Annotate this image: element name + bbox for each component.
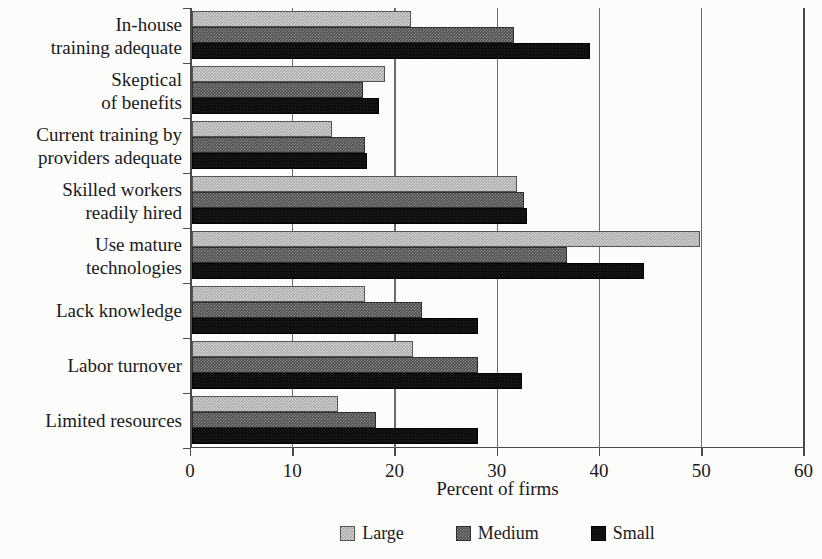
bar-group [192, 393, 805, 448]
bar-small [192, 98, 379, 114]
bar-large [192, 231, 700, 247]
y-axis-label: Skeptical of benefits [101, 68, 182, 114]
y-tick [183, 118, 191, 119]
bar-large [192, 66, 385, 82]
bar-small [192, 208, 527, 224]
y-axis-label: Current training by providers adequate [36, 123, 182, 169]
bar-medium [192, 412, 376, 428]
y-tick [183, 63, 191, 64]
y-tick [183, 393, 191, 394]
y-axis-label: Skilled workers readily hired [62, 178, 182, 224]
chart-legend: LargeMediumSmall [190, 524, 805, 542]
bar-group [192, 173, 805, 228]
y-axis-label: Limited resources [45, 409, 182, 432]
plot-area: 0102030405060 [190, 8, 805, 448]
bar-medium [192, 192, 524, 208]
y-axis-label: Use mature technologies [86, 233, 182, 279]
x-axis-title: Percent of firms [190, 478, 805, 500]
bar-medium [192, 302, 422, 318]
bar-medium [192, 82, 364, 98]
bar-medium [192, 137, 366, 153]
bar-large [192, 11, 412, 27]
bar-large [192, 176, 517, 192]
bar-small [192, 263, 645, 279]
bar-medium [192, 357, 478, 373]
legend-swatch-large [340, 526, 355, 541]
x-tick-50 [701, 448, 702, 456]
bar-group [192, 118, 805, 173]
chart-page: In-house training adequateSkeptical of b… [0, 0, 822, 559]
legend-item-large[interactable]: Large [340, 524, 404, 542]
bar-group [192, 228, 805, 283]
x-tick-0 [190, 448, 191, 456]
bar-group [192, 63, 805, 118]
y-axis-labels: In-house training adequateSkeptical of b… [0, 0, 182, 460]
legend-item-small[interactable]: Small [591, 524, 655, 542]
bar-group [192, 283, 805, 338]
y-axis-label: Lack knowledge [56, 299, 182, 322]
bar-group [192, 338, 805, 393]
legend-item-medium[interactable]: Medium [456, 524, 539, 542]
bar-large [192, 121, 332, 137]
y-axis-label: Labor turnover [68, 354, 182, 377]
legend-label-medium: Medium [478, 524, 539, 542]
bar-small [192, 153, 368, 169]
bar-large [192, 341, 414, 357]
bar-small [192, 428, 478, 444]
bar-group [192, 8, 805, 63]
bar-small [192, 43, 591, 59]
bar-small [192, 318, 478, 334]
y-tick [183, 228, 191, 229]
bar-small [192, 373, 522, 389]
legend-swatch-medium [456, 526, 471, 541]
x-tick-30 [497, 448, 498, 456]
x-tick-40 [599, 448, 600, 456]
x-tick-20 [394, 448, 395, 456]
legend-label-large: Large [362, 524, 404, 542]
bar-large [192, 396, 338, 412]
x-tick-10 [292, 448, 293, 456]
bar-large [192, 286, 366, 302]
x-tick-60 [803, 448, 804, 456]
y-tick [183, 338, 191, 339]
legend-swatch-small [591, 526, 606, 541]
legend-label-small: Small [613, 524, 655, 542]
y-axis-label: In-house training adequate [51, 13, 182, 59]
bar-medium [192, 27, 514, 43]
y-tick [183, 283, 191, 284]
bar-medium [192, 247, 567, 263]
y-tick [183, 173, 191, 174]
y-tick [183, 8, 191, 9]
